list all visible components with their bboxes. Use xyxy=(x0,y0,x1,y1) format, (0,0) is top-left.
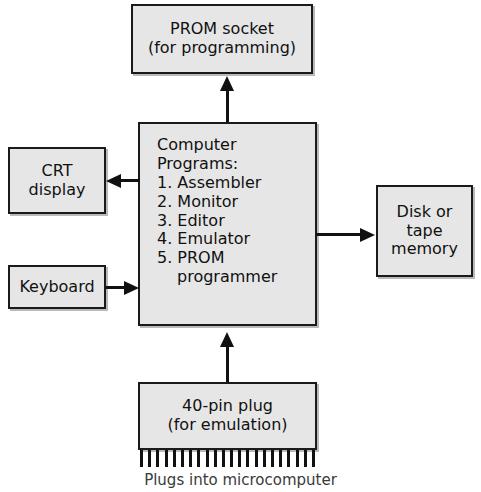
plug-pin xyxy=(214,450,217,467)
plug-pin xyxy=(312,450,315,467)
computer-program-item-5-continuation: programmer xyxy=(157,268,315,287)
plug-pin xyxy=(189,450,192,467)
arrowhead-up-to-computer xyxy=(220,332,234,347)
plug-pin xyxy=(238,450,241,467)
plug-pin xyxy=(173,450,176,467)
plug-pin xyxy=(271,450,274,467)
plug-pin xyxy=(148,450,151,467)
plug-pin xyxy=(255,450,258,467)
connector-plug-to-computer xyxy=(226,346,229,382)
plug-pin xyxy=(287,450,290,467)
connector-computer-to-prom-socket xyxy=(226,88,229,122)
keyboard-box: Keyboard xyxy=(8,265,106,309)
crt-line-1: CRT xyxy=(42,162,73,181)
plug-pin xyxy=(304,450,307,467)
plug-pin xyxy=(263,450,266,467)
plug-pin xyxy=(222,450,225,467)
arrowhead-right-to-computer xyxy=(124,281,139,295)
keyboard-line-1: Keyboard xyxy=(19,278,94,297)
plug-pin xyxy=(181,450,184,467)
plug-pin xyxy=(197,450,200,467)
plug-line-2: (for emulation) xyxy=(167,416,287,435)
disk-line-1: Disk or xyxy=(397,203,453,222)
plug-pin xyxy=(279,450,282,467)
computer-program-item-1: 1. Assembler xyxy=(157,174,315,193)
prom-socket-box: PROM socket (for programming) xyxy=(131,4,313,74)
connector-computer-to-disk-memory xyxy=(316,233,361,236)
computer-program-item-5: 5. PROM xyxy=(157,249,315,268)
disk-or-tape-memory-box: Disk or tape memory xyxy=(376,185,473,277)
disk-line-3: memory xyxy=(391,240,458,259)
prom-socket-line-2: (for programming) xyxy=(148,39,296,58)
plug-pin xyxy=(230,450,233,467)
computer-line-2: Programs: xyxy=(157,155,315,174)
crt-line-2: display xyxy=(29,181,86,200)
forty-pin-plug-box: 40-pin plug (for emulation) xyxy=(138,382,317,450)
arrowhead-up-to-prom-socket xyxy=(220,76,234,91)
plug-pin xyxy=(156,450,159,467)
plug-pin-rail xyxy=(140,450,315,467)
computer-line-1: Computer xyxy=(157,136,315,155)
plug-pin xyxy=(296,450,299,467)
computer-program-item-4: 4. Emulator xyxy=(157,230,315,249)
computer-program-item-3: 3. Editor xyxy=(157,212,315,231)
computer-programs-box: Computer Programs: 1. Assembler 2. Monit… xyxy=(138,122,317,326)
connector-computer-to-crt-display xyxy=(121,179,140,182)
prom-socket-line-1: PROM socket xyxy=(170,20,274,39)
plug-pin xyxy=(165,450,168,467)
crt-display-box: CRT display xyxy=(8,147,106,214)
plug-pin xyxy=(246,450,249,467)
block-diagram: PROM socket (for programming) Computer P… xyxy=(0,0,481,492)
plug-line-1: 40-pin plug xyxy=(182,397,273,416)
arrowhead-left-to-crt-display xyxy=(106,174,121,188)
computer-program-item-2: 2. Monitor xyxy=(157,193,315,212)
disk-line-2: tape xyxy=(406,222,442,241)
arrowhead-right-to-disk-memory xyxy=(360,228,375,242)
plug-caption: Plugs into microcomputer xyxy=(0,471,481,489)
connector-keyboard-to-computer xyxy=(106,286,125,289)
plug-pin xyxy=(140,450,143,467)
plug-pin xyxy=(206,450,209,467)
